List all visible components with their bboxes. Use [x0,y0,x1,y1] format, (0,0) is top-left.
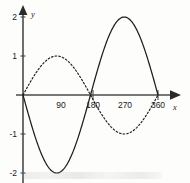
x-tick-label-180: 180 [86,100,100,110]
y-tick-label-1: 1 [12,51,17,61]
x-tick-label-270: 270 [118,100,132,110]
graph-svg: 90 180 270 360 2 1 -1 -2 y x [0,0,190,183]
x-tick-label-360: 360 [151,100,165,110]
x-tick-label-90: 90 [56,100,66,110]
x-axis-label: x [172,102,177,112]
y-tick-label-2: 2 [12,12,17,22]
trig-graph-figure: 90 180 270 360 2 1 -1 -2 y x [0,0,190,183]
x-axis-arrowhead [170,90,181,100]
y-axis-arrowhead [19,5,28,15]
y-tick-label-neg1: -1 [9,129,17,139]
y-tick-label-neg2: -2 [9,168,17,178]
y-axis-label: y [30,9,35,19]
